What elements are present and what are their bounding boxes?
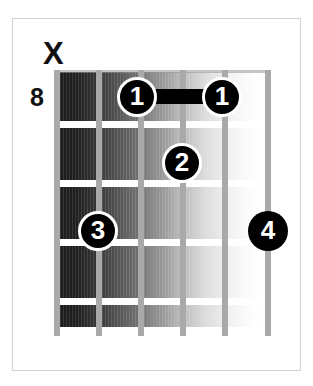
- string-6: [265, 70, 271, 336]
- string-1: [54, 70, 60, 336]
- mute-marker-x-icon: X: [43, 38, 64, 69]
- finger-dot-label: 1: [215, 83, 229, 109]
- finger-dot-label: 4: [261, 217, 275, 243]
- finger-dot-3-string-2[interactable]: 3: [78, 211, 118, 251]
- finger-dot-4-string-6[interactable]: 4: [248, 211, 288, 251]
- finger-dot-1-string-3[interactable]: 1: [117, 77, 157, 117]
- fret-line-4: [57, 298, 269, 305]
- fretboard: [57, 72, 269, 334]
- fret-line-5: [57, 327, 269, 334]
- string-4: [180, 70, 186, 336]
- string-2: [96, 70, 102, 336]
- finger-dot-label: 3: [91, 217, 105, 243]
- fretboard-top-edge: [57, 70, 269, 73]
- finger-dot-2-string-4[interactable]: 2: [162, 143, 202, 183]
- fret-line-1: [57, 121, 269, 128]
- chord-diagram-canvas: X 8 1 1 2 3 4: [0, 0, 313, 386]
- fret-line-2: [57, 180, 269, 187]
- finger-dot-label: 2: [175, 149, 189, 175]
- finger-dot-label: 1: [130, 83, 144, 109]
- starting-fret-number: 8: [30, 85, 44, 110]
- finger-dot-1-string-5[interactable]: 1: [202, 77, 242, 117]
